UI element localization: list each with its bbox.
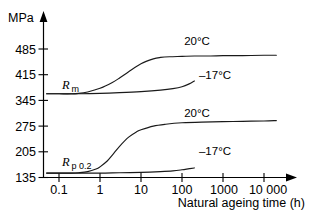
chart-container: MPa 135 205 275 345 415 485 — [0, 0, 313, 211]
curve-rm-20c — [47, 55, 277, 94]
y-tick-label: 135 — [15, 171, 36, 185]
annotation-rp02-20c: 20°C — [184, 107, 210, 119]
rp02-label-subscript: p 0.2 — [72, 161, 92, 171]
y-tick-label: 345 — [15, 94, 36, 108]
annotation-rp02-minus17c: –17°C — [199, 145, 231, 157]
x-axis — [44, 173, 298, 181]
y-tick-label: 205 — [15, 145, 36, 159]
property-label-rm: R m — [61, 78, 79, 94]
y-tick-label: 415 — [15, 68, 36, 82]
annotation-rm-minus17c: –17°C — [199, 69, 231, 81]
x-tick-label: 10 — [134, 183, 148, 197]
y-axis-label: MPa — [8, 11, 34, 25]
x-tick-label: 1 — [97, 183, 104, 197]
x-axis-arrow-icon — [286, 173, 297, 181]
y-axis-tick-labels: 135 205 275 345 415 485 — [15, 43, 36, 186]
x-axis-title: Natural ageing time (h) — [178, 196, 305, 210]
series-annotations: 20°C –17°C 20°C –17°C — [184, 35, 231, 157]
y-tick-label: 275 — [15, 120, 36, 134]
y-axis-arrow-icon — [40, 11, 48, 22]
rp02-label-main: R — [61, 155, 70, 169]
ageing-curves-chart: MPa 135 205 275 345 415 485 — [0, 0, 313, 211]
x-tick-label: 1000 — [210, 183, 238, 197]
rm-label-main: R — [61, 78, 70, 92]
curve-layer — [47, 55, 277, 173]
x-axis-tick-labels: 0.1 1 10 100 1000 10 000 — [50, 183, 287, 197]
x-tick-label: 10 000 — [249, 183, 287, 197]
x-tick-label: 0.1 — [50, 183, 67, 197]
property-label-rp02: R p 0.2 — [61, 155, 92, 171]
y-axis — [40, 11, 48, 178]
y-tick-label: 485 — [15, 43, 36, 57]
annotation-rm-20c: 20°C — [184, 35, 210, 47]
x-tick-label: 100 — [172, 183, 193, 197]
rm-label-subscript: m — [72, 84, 80, 94]
